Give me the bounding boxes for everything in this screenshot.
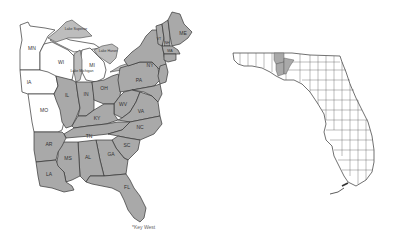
- label-mi: MI: [89, 62, 95, 68]
- label-ny: NY: [147, 62, 155, 68]
- label-tn: TN: [86, 133, 93, 139]
- label-me: ME: [179, 30, 187, 36]
- label-nc: NC: [136, 124, 144, 130]
- florida-keys-west: [342, 183, 348, 186]
- label-lake-huron: Lake Huron: [99, 49, 118, 53]
- label-mn: MN: [28, 45, 36, 51]
- florida-keys: [330, 188, 344, 194]
- florida-county-map: [233, 53, 374, 194]
- state-nj: [158, 64, 168, 84]
- label-mo: MO: [40, 107, 48, 113]
- label-sc: SC: [124, 142, 131, 148]
- state-ct-ri: [164, 54, 176, 62]
- lake-superior: [48, 20, 92, 42]
- us-eastern-map: MN WI MI IA MO IL IN OH KY WV PA NY VA N…: [20, 12, 192, 230]
- label-va: VA: [138, 108, 145, 114]
- label-nh: NH: [164, 41, 170, 45]
- label-in: IN: [84, 91, 89, 97]
- label-wi: WI: [58, 59, 64, 65]
- label-ms: MS: [64, 155, 72, 161]
- label-al: AL: [85, 154, 91, 160]
- label-il: IL: [65, 92, 69, 98]
- label-lake-michigan: Lake Michigan: [70, 69, 93, 73]
- label-pa: PA: [136, 77, 143, 83]
- label-ga: GA: [107, 151, 115, 157]
- label-ia: IA: [27, 79, 32, 85]
- label-lake-superior: Lake Superior: [65, 27, 88, 31]
- label-fl: FL: [124, 184, 130, 190]
- state-me: [168, 12, 192, 46]
- label-ky: KY: [94, 115, 101, 121]
- lake-michigan: [74, 50, 82, 82]
- label-ar: AR: [46, 141, 53, 147]
- florida-outline: [233, 53, 374, 186]
- label-ma: MA: [167, 49, 173, 53]
- label-oh: OH: [100, 85, 108, 91]
- label-wv: WV: [119, 101, 128, 107]
- key-west-annotation: *Key West: [132, 224, 156, 230]
- label-vt: VT: [157, 37, 162, 41]
- distribution-figure: MN WI MI IA MO IL IN OH KY WV PA NY VA N…: [0, 0, 393, 238]
- state-fl: [86, 174, 146, 222]
- label-la: LA: [46, 171, 53, 177]
- county-present-2: [276, 62, 284, 76]
